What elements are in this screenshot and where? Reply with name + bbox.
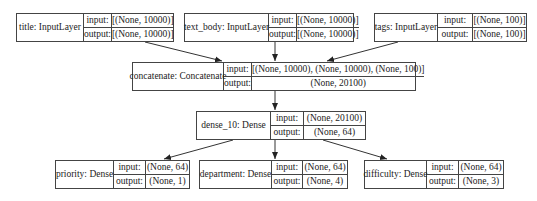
- edge-tags-to-concatenate: [327, 42, 398, 61]
- node-label: tags: InputLayer: [375, 14, 438, 41]
- input-label: input:: [224, 63, 251, 77]
- node-difficulty: difficulty: Dense input: output: (None, …: [364, 160, 504, 189]
- io-values: [(None, 10000), (None, 10000), (None, 10…: [252, 63, 425, 90]
- io-values: (None, 64) (None, 3): [459, 161, 503, 188]
- output-shape: (None, 1): [146, 175, 189, 188]
- edge-dense-10-to-priority: [164, 140, 233, 159]
- node-priority: priority: Dense input: output: (None, 64…: [55, 160, 190, 189]
- node-department: department: Dense input: output: (None, …: [199, 160, 348, 189]
- io-labels: input: output:: [224, 63, 252, 90]
- input-shape: [(None, 10000)]: [112, 14, 174, 28]
- output-shape: (None, 20100): [252, 77, 425, 90]
- node-label: text_body: InputLayer: [185, 14, 269, 41]
- output-shape: (None, 3): [459, 175, 503, 188]
- io-labels: input: output:: [271, 112, 304, 139]
- input-label: input:: [427, 161, 458, 175]
- input-shape: (None, 64): [303, 161, 347, 175]
- output-shape: [(None, 10000)]: [297, 28, 359, 41]
- io-values: (None, 20100) (None, 64): [304, 112, 365, 139]
- io-labels: input: output:: [427, 161, 459, 188]
- io-labels: input: output:: [438, 14, 473, 41]
- output-label: output:: [272, 175, 302, 188]
- node-text-body: text_body: InputLayer input: output: [(N…: [184, 13, 354, 42]
- output-label: output:: [224, 77, 251, 90]
- input-shape: (None, 20100): [304, 112, 365, 126]
- io-values: (None, 64) (None, 1): [146, 161, 189, 188]
- input-label: input:: [84, 14, 111, 28]
- input-label: input:: [269, 14, 296, 28]
- output-label: output:: [438, 28, 472, 41]
- output-shape: [(None, 100)]: [473, 28, 526, 41]
- output-shape: (None, 64): [304, 126, 365, 139]
- io-labels: input: output:: [272, 161, 303, 188]
- output-label: output:: [271, 126, 303, 139]
- node-label: difficulty: Dense: [365, 161, 427, 188]
- output-label: output:: [84, 28, 111, 41]
- output-shape: (None, 4): [303, 175, 347, 188]
- io-values: [(None, 10000)] [(None, 10000)]: [297, 14, 359, 41]
- output-label: output:: [114, 175, 145, 188]
- node-label: department: Dense: [200, 161, 272, 188]
- input-label: input:: [438, 14, 472, 28]
- node-label: priority: Dense: [56, 161, 114, 188]
- input-shape: [(None, 100)]: [473, 14, 526, 28]
- node-label: concatenate: Concatenate: [133, 63, 224, 90]
- output-label: output:: [269, 28, 296, 41]
- output-shape: [(None, 10000)]: [112, 28, 174, 41]
- node-title: title: InputLayer input: output: [(None,…: [16, 13, 174, 42]
- input-label: input:: [271, 112, 303, 126]
- node-dense-10: dense_10: Dense input: output: (None, 20…: [196, 111, 366, 140]
- input-label: input:: [114, 161, 145, 175]
- io-values: [(None, 100)] [(None, 100)]: [473, 14, 526, 41]
- io-labels: input: output:: [269, 14, 297, 41]
- node-label: dense_10: Dense: [197, 112, 271, 139]
- io-labels: input: output:: [114, 161, 146, 188]
- io-values: [(None, 10000)] [(None, 10000)]: [112, 14, 174, 41]
- input-shape: (None, 64): [459, 161, 503, 175]
- edge-title-to-concatenate: [145, 42, 222, 61]
- input-label: input:: [272, 161, 302, 175]
- io-labels: input: output:: [84, 14, 112, 41]
- edge-dense-10-to-difficulty: [323, 140, 387, 159]
- input-shape: [(None, 10000)]: [297, 14, 359, 28]
- output-label: output:: [427, 175, 458, 188]
- node-tags: tags: InputLayer input: output: [(None, …: [374, 13, 527, 42]
- input-shape: (None, 64): [146, 161, 189, 175]
- node-concatenate: concatenate: Concatenate input: output: …: [132, 62, 416, 91]
- io-values: (None, 64) (None, 4): [303, 161, 347, 188]
- node-label: title: InputLayer: [17, 14, 84, 41]
- input-shape: [(None, 10000), (None, 10000), (None, 10…: [252, 63, 425, 77]
